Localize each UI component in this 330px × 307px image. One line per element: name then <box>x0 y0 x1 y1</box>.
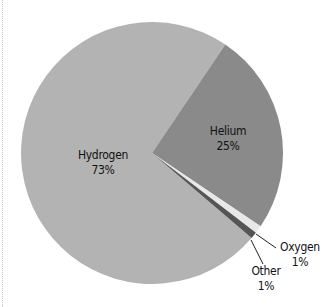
label-other-pct: 1% <box>244 279 288 294</box>
label-oxygen-name: Oxygen <box>272 240 328 255</box>
label-other: Other 1% <box>244 264 288 294</box>
label-hydrogen-name: Hydrogen <box>70 148 136 163</box>
leader-line-other <box>251 240 263 264</box>
label-helium-name: Helium <box>200 124 256 139</box>
label-other-name: Other <box>244 264 288 279</box>
label-hydrogen-pct: 73% <box>70 163 136 178</box>
label-helium-pct: 25% <box>200 139 256 154</box>
label-hydrogen: Hydrogen 73% <box>70 148 136 178</box>
label-helium: Helium 25% <box>200 124 256 154</box>
